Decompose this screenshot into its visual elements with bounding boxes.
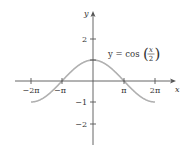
x-axis-label: x <box>175 85 180 94</box>
x-tick-label: π <box>121 86 126 95</box>
equation-lhs: y = cos <box>107 49 140 59</box>
y-tick-label: −1 <box>75 98 87 107</box>
y-tick-label: −2 <box>75 120 87 129</box>
equation-numerator: x <box>149 46 153 54</box>
equation-label: y = cos ( x 2 ) <box>107 45 160 63</box>
x-tick-label: −2π <box>22 86 39 95</box>
y-tick-label: 2 <box>82 35 87 44</box>
x-tick-label: −π <box>54 86 66 95</box>
right-paren: ) <box>155 45 161 63</box>
x-tick-label: 2π <box>150 86 160 95</box>
equation-denominator: 2 <box>149 55 153 63</box>
cosine-graph: −2π −π π 2π 2 −1 −2 x y y = cos ( x 2 ) <box>0 0 185 148</box>
y-axis-label: y <box>83 9 89 18</box>
